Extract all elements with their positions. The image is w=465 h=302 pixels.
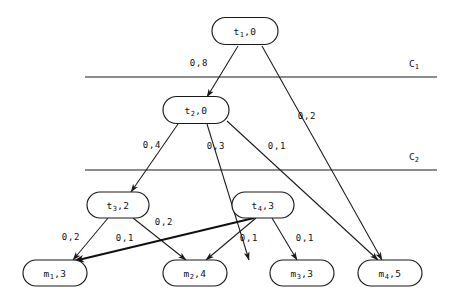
node-t2[interactable]: t2,0 xyxy=(163,97,229,124)
edge-label-t1-m4: 0,2 xyxy=(298,111,317,121)
node-m3[interactable]: m3,3 xyxy=(270,260,334,286)
cut-label-c2: C2 xyxy=(409,151,419,165)
edge-label-t2-m4: 0,1 xyxy=(268,141,287,151)
edge-t4-to-m3 xyxy=(272,218,297,260)
edge-group xyxy=(73,46,382,261)
edge-label-t3-m2: 0,2 xyxy=(155,217,174,227)
cut-label-c1: C1 xyxy=(409,58,419,72)
node-m2[interactable]: m2,4 xyxy=(163,260,227,286)
edge-t2-to-t3 xyxy=(131,124,178,192)
cut-label-group: C1C2 xyxy=(409,58,419,165)
edge-label-t4-m2: 0,1 xyxy=(240,233,259,243)
edge-t1-to-t2 xyxy=(207,46,238,97)
edge-label-t2-m2: 0,3 xyxy=(207,141,226,151)
node-t4[interactable]: t4,3 xyxy=(232,192,294,218)
node-m4[interactable]: m4,5 xyxy=(358,260,422,286)
edge-label-t3-m1: 0,2 xyxy=(62,232,81,242)
edge-label-t4-m1: 0,1 xyxy=(116,233,135,243)
node-m1[interactable]: m1,3 xyxy=(23,260,87,286)
node-t3[interactable]: t3,2 xyxy=(87,192,149,218)
edge-label-t1-t2: 0,8 xyxy=(190,58,209,68)
graph-svg: 0,80,20,40,30,10,20,20,10,10,1 t1,0t2,0t… xyxy=(0,0,465,302)
edge-label-t2-t3: 0,4 xyxy=(143,140,162,150)
diagram-canvas: 0,80,20,40,30,10,20,20,10,10,1 t1,0t2,0t… xyxy=(0,0,465,302)
node-t1[interactable]: t1,0 xyxy=(212,18,278,45)
edge-label-t4-m3: 0,1 xyxy=(296,233,315,243)
cut-line-group xyxy=(85,77,437,170)
edge-t1-to-m4 xyxy=(262,46,382,260)
